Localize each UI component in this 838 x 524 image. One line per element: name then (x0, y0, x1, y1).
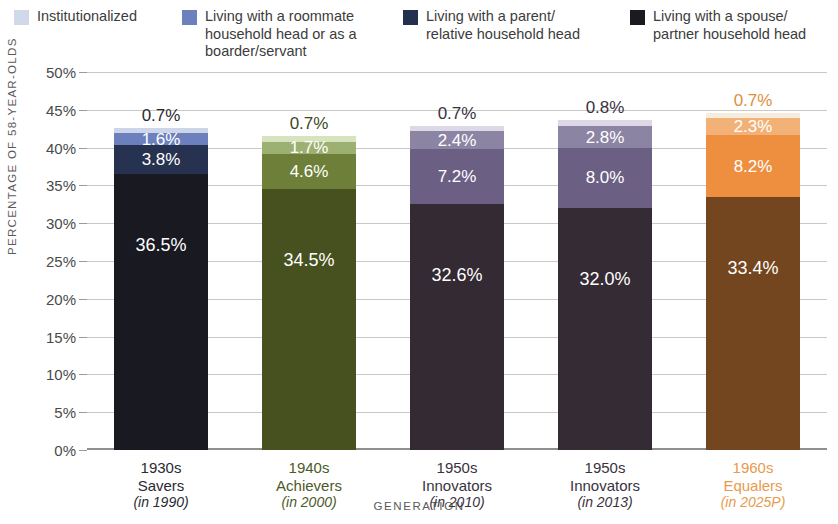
bar-segment-value-label: 7.2% (438, 168, 477, 185)
bar-segment[interactable]: 32.6% (410, 204, 504, 450)
y-tick-label: 35% (46, 177, 76, 194)
category-line-2: Equalers (673, 477, 833, 495)
gridline (87, 450, 827, 451)
y-tick-label: 20% (46, 290, 76, 307)
category-line-1: 1940s (229, 459, 389, 477)
category-year: (in 2010) (377, 494, 537, 512)
category-year: (in 1990) (81, 494, 241, 512)
bar-stack: 0.7%2.4%7.2%32.6% (410, 126, 504, 450)
bar-segment-value-label: 0.7% (239, 115, 380, 132)
gridline (87, 72, 827, 73)
legend-label-spouse: Living with a spouse/ partner household … (653, 8, 806, 43)
y-tick-mark (79, 223, 87, 224)
bar-segment-value-label: 32.6% (431, 266, 482, 284)
y-tick-mark (79, 299, 87, 300)
y-tick-label: 30% (46, 215, 76, 232)
x-axis-category-label: 1950sInnovators(in 2010) (377, 459, 537, 512)
y-axis-title: PERCENTAGE OF 58-YEAR-OLDS (6, 37, 18, 255)
bar-segment[interactable]: 2.4% (410, 131, 504, 149)
bar-stack: 0.8%2.8%8.0%32.0% (558, 120, 652, 450)
x-axis-category-label: 1940sAchievers(in 2000) (229, 459, 389, 512)
legend-swatch-parent (403, 10, 418, 25)
legend-swatch-roommate (182, 10, 197, 25)
bar-segment[interactable]: 32.0% (558, 208, 652, 450)
bar-segment[interactable]: 2.3% (706, 118, 800, 135)
y-tick-mark (79, 261, 87, 262)
y-tick-mark (79, 450, 87, 451)
legend-item-institutionalized: Institutionalized (14, 8, 174, 26)
bar-segment-value-label: 0.7% (387, 105, 528, 122)
y-tick-mark (79, 185, 87, 186)
legend-item-spouse: Living with a spouse/ partner household … (630, 8, 830, 43)
y-tick-mark (79, 72, 87, 73)
legend-label-parent: Living with a parent/ relative household… (426, 8, 580, 43)
y-tick-label: 50% (46, 64, 76, 81)
category-line-2: Savers (81, 477, 241, 495)
bar-segment-value-label: 8.2% (734, 158, 773, 175)
bar-segment-value-label: 8.0% (586, 169, 625, 186)
bar-segment-value-label: 34.5% (283, 251, 334, 269)
category-line-1: 1950s (525, 459, 685, 477)
bar-segment-value-label: 2.4% (438, 132, 477, 149)
category-line-2: Innovators (377, 477, 537, 495)
category-line-2: Achievers (229, 477, 389, 495)
bar-stack: 0.7%1.7%4.6%34.5% (262, 136, 356, 450)
category-year: (in 2013) (525, 494, 685, 512)
bar-segment[interactable]: 1.6% (114, 133, 208, 145)
y-tick-label: 25% (46, 253, 76, 270)
bar-segment-value-label: 4.6% (290, 163, 329, 180)
bar-segment-value-label: 0.7% (91, 107, 232, 124)
bar-segment[interactable]: 8.2% (706, 135, 800, 197)
x-axis-category-label: 1950sInnovators(in 2013) (525, 459, 685, 512)
bar-segment-value-label: 33.4% (727, 259, 778, 277)
x-axis-category-label: 1930sSavers(in 1990) (81, 459, 241, 512)
legend-item-parent: Living with a parent/ relative household… (403, 8, 618, 43)
category-line-1: 1960s (673, 459, 833, 477)
legend-item-roommate: Living with a roommate household head or… (182, 8, 387, 61)
y-tick-mark (79, 337, 87, 338)
bar-segment[interactable]: 2.8% (558, 126, 652, 147)
y-tick-mark (79, 374, 87, 375)
y-tick-label: 45% (46, 101, 76, 118)
bar-stack: 0.7%1.6%3.8%36.5% (114, 128, 208, 450)
bar-segment-value-label: 2.3% (734, 118, 773, 135)
y-tick-mark (79, 412, 87, 413)
y-tick-label: 15% (46, 328, 76, 345)
bar-segment[interactable]: 7.2% (410, 149, 504, 203)
bar-segment[interactable]: 36.5% (114, 174, 208, 450)
chart-legend: Institutionalized Living with a roommate… (0, 0, 838, 62)
category-year: (in 2025P) (673, 494, 833, 512)
legend-swatch-spouse (630, 10, 645, 25)
legend-swatch-institutionalized (14, 10, 29, 25)
x-axis-category-label: 1960sEqualers(in 2025P) (673, 459, 833, 512)
bar-segment[interactable]: 33.4% (706, 197, 800, 450)
bar-segment[interactable]: 34.5% (262, 189, 356, 450)
y-tick-mark (79, 110, 87, 111)
bar-segment[interactable]: 8.0% (558, 148, 652, 208)
y-tick-label: 40% (46, 139, 76, 156)
bar-segment-value-label: 0.8% (535, 99, 676, 116)
bar-segment-value-label: 3.8% (142, 151, 181, 168)
bar-segment[interactable]: 1.7% (262, 142, 356, 155)
y-tick-label: 5% (54, 404, 76, 421)
category-line-1: 1950s (377, 459, 537, 477)
bar-segment-value-label: 0.7% (683, 92, 824, 109)
bar-segment[interactable]: 4.6% (262, 154, 356, 189)
bar-segment-value-label: 36.5% (135, 236, 186, 254)
bar-segment-value-label: 32.0% (579, 270, 630, 288)
legend-label-institutionalized: Institutionalized (37, 8, 137, 26)
category-line-1: 1930s (81, 459, 241, 477)
y-tick-mark (79, 148, 87, 149)
category-year: (in 2000) (229, 494, 389, 512)
chart-plot-area: 0%5%10%15%20%25%30%35%40%45%50% 0.7%1.6%… (87, 72, 827, 450)
legend-label-roommate: Living with a roommate household head or… (205, 8, 357, 61)
bar-segment-value-label: 2.8% (586, 129, 625, 146)
bar-segment[interactable]: 3.8% (114, 145, 208, 174)
category-line-2: Innovators (525, 477, 685, 495)
bar-stack: 0.7%2.3%8.2%33.4% (706, 113, 800, 450)
y-tick-label: 0% (54, 442, 76, 459)
y-tick-label: 10% (46, 366, 76, 383)
